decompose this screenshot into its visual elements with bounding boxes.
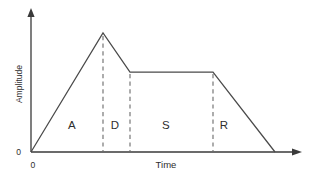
phase-label-decay: D bbox=[111, 119, 120, 131]
adsr-envelope-figure: A D S R Time Amplitude 0 0 bbox=[0, 0, 315, 177]
x-axis-title: Time bbox=[156, 159, 177, 170]
phase-label-release: R bbox=[220, 119, 229, 131]
phase-label-sustain: S bbox=[162, 119, 170, 131]
plot-background bbox=[0, 0, 315, 177]
phase-label-attack: A bbox=[68, 119, 76, 131]
envelope-plot-svg: A D S R Time Amplitude 0 0 bbox=[0, 0, 315, 177]
y-axis-origin-tick: 0 bbox=[16, 147, 21, 157]
x-axis-origin-tick: 0 bbox=[31, 160, 36, 170]
y-axis-title: Amplitude bbox=[14, 65, 24, 103]
